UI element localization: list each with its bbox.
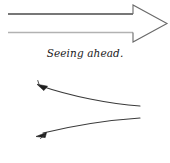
arrowhead-lower-icon bbox=[36, 133, 47, 138]
panel-seeing-behind: Seeing behind. bbox=[0, 70, 170, 163]
right-arrow-icon bbox=[0, 0, 170, 70]
arrowhead-upper-icon bbox=[37, 84, 48, 90]
diverging-curves-icon bbox=[0, 70, 170, 163]
caption-seeing-ahead: Seeing ahead. bbox=[0, 47, 170, 59]
figure-container: Seeing ahead. Seeing behind. bbox=[0, 0, 170, 163]
panel-seeing-ahead: Seeing ahead. bbox=[0, 0, 170, 70]
